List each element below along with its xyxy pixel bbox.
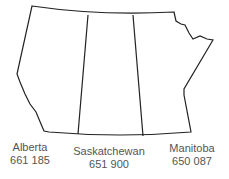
province-value: 661 185 [2,154,58,167]
region-outline [17,6,213,135]
province-name: Saskatchewan [66,145,152,158]
alberta-saskatchewan-border [78,15,88,134]
province-name: Manitoba [162,142,222,155]
province-value: 650 087 [162,155,222,168]
label-manitoba: Manitoba 650 087 [162,142,222,168]
label-saskatchewan: Saskatchewan 651 900 [66,145,152,171]
saskatchewan-manitoba-border [133,15,143,136]
province-value: 651 900 [66,158,152,171]
province-name: Alberta [2,141,58,154]
label-alberta: Alberta 661 185 [2,141,58,167]
